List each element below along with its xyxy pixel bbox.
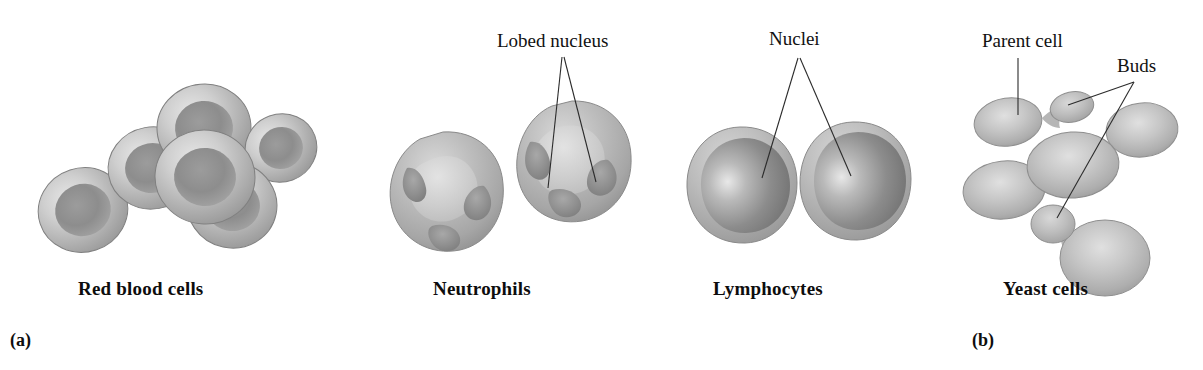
yeast-bud bbox=[1031, 205, 1075, 243]
neutrophil bbox=[390, 132, 503, 251]
lymphocyte bbox=[800, 122, 911, 240]
yeast-parent-cell bbox=[971, 94, 1045, 151]
panel-marker-b: (b) bbox=[972, 330, 994, 351]
lymphocytes-group bbox=[687, 122, 911, 243]
caption-neutrophils: Neutrophils bbox=[433, 278, 531, 300]
annotation-parent-cell: Parent cell bbox=[982, 30, 1063, 52]
panel-marker-a: (a) bbox=[10, 330, 31, 351]
cell-illustration-canvas bbox=[0, 0, 1203, 370]
annotation-lobed-nucleus: Lobed nucleus bbox=[497, 30, 608, 52]
lymphocyte-nucleus bbox=[701, 138, 790, 233]
neutrophil bbox=[517, 101, 631, 222]
lymphocyte bbox=[687, 127, 797, 243]
cell-comparison-figure: Lobed nucleus Nuclei Parent cell Buds Re… bbox=[0, 0, 1203, 370]
annotation-buds: Buds bbox=[1117, 55, 1156, 77]
caption-yeast-cells: Yeast cells bbox=[1003, 278, 1088, 300]
red-blood-cells-group bbox=[27, 80, 326, 264]
annotation-nuclei: Nuclei bbox=[769, 28, 820, 50]
lymphocyte-nucleus bbox=[814, 132, 906, 230]
caption-lymphocytes: Lymphocytes bbox=[713, 278, 823, 300]
caption-red-blood-cells: Red blood cells bbox=[78, 278, 203, 300]
yeast-cells-group bbox=[960, 88, 1180, 296]
